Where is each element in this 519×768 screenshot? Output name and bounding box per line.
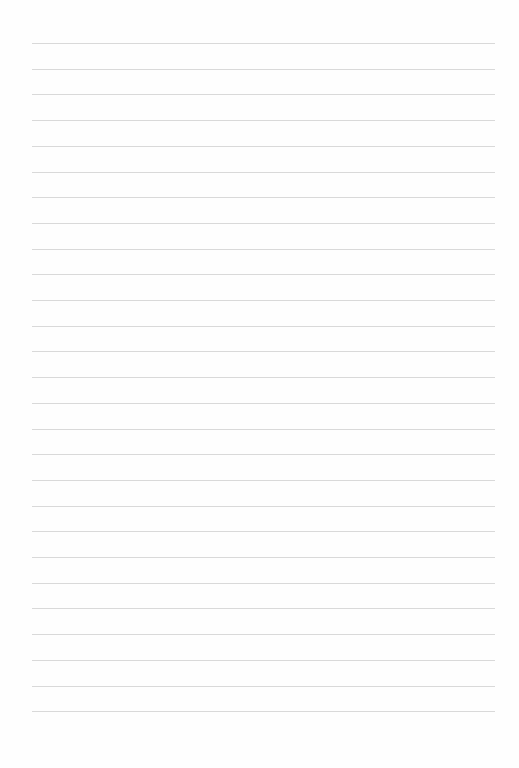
ruled-line (32, 249, 495, 250)
ruled-line (32, 351, 495, 352)
ruled-line (32, 274, 495, 275)
ruled-line (32, 146, 495, 147)
ruled-line (32, 660, 495, 661)
ruled-line (32, 69, 495, 70)
ruled-line (32, 557, 495, 558)
ruled-line (32, 326, 495, 327)
ruled-line (32, 377, 495, 378)
ruled-line (32, 531, 495, 532)
ruled-line (32, 120, 495, 121)
ruled-line (32, 506, 495, 507)
ruled-line (32, 429, 495, 430)
ruled-line (32, 583, 495, 584)
ruled-line (32, 480, 495, 481)
ruled-line (32, 197, 495, 198)
ruled-line (32, 403, 495, 404)
ruled-line (32, 94, 495, 95)
ruled-line (32, 300, 495, 301)
lined-paper-sheet (0, 0, 519, 768)
ruled-line (32, 172, 495, 173)
ruled-line (32, 43, 495, 44)
ruled-line (32, 454, 495, 455)
ruled-line (32, 711, 495, 712)
ruled-line (32, 686, 495, 687)
ruled-line (32, 223, 495, 224)
ruled-line (32, 634, 495, 635)
ruled-line (32, 608, 495, 609)
